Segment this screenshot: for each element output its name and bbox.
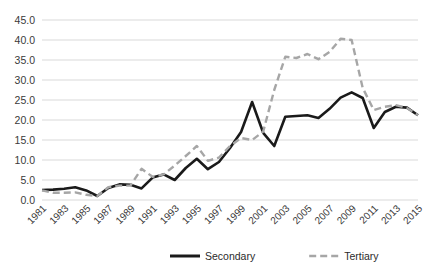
ytick-label: 0.0 xyxy=(20,194,35,206)
xtick-label: 2011 xyxy=(357,202,380,225)
xtick-label: 1991 xyxy=(135,202,159,226)
chart-container: 45.040.035.030.025.020.015.010.05.00.019… xyxy=(0,0,432,270)
ytick-label: 10.0 xyxy=(15,154,36,166)
xtick-label: 2007 xyxy=(312,202,336,226)
xtick-label: 2015 xyxy=(401,202,425,226)
xtick-label: 1985 xyxy=(69,202,93,226)
xtick-label: 1999 xyxy=(224,202,248,226)
ytick-label: 25.0 xyxy=(15,94,36,106)
ytick-label: 40.0 xyxy=(15,34,36,46)
xtick-label: 1983 xyxy=(47,202,71,226)
ytick-label: 30.0 xyxy=(15,74,36,86)
xtick-label: 1981 xyxy=(25,202,49,226)
plot-area xyxy=(42,20,418,200)
xtick-label: 2009 xyxy=(335,202,359,226)
xtick-label: 1989 xyxy=(113,202,137,226)
xtick-label: 1995 xyxy=(180,202,204,226)
ytick-label: 5.0 xyxy=(20,174,35,186)
legend-label-secondary: Secondary xyxy=(205,250,256,262)
xtick-label: 1993 xyxy=(158,202,182,226)
ytick-label: 20.0 xyxy=(15,114,36,126)
ytick-label: 35.0 xyxy=(15,54,36,66)
xtick-label: 2001 xyxy=(246,202,270,226)
xtick-label: 2003 xyxy=(268,202,292,226)
xtick-label: 2013 xyxy=(379,202,403,226)
xtick-label: 1997 xyxy=(202,202,226,226)
xtick-label: 1987 xyxy=(91,202,115,226)
ytick-label: 45.0 xyxy=(15,14,36,26)
ytick-label: 15.0 xyxy=(15,134,36,146)
line-chart: 45.040.035.030.025.020.015.010.05.00.019… xyxy=(0,0,432,270)
xtick-label: 2005 xyxy=(290,202,314,226)
legend-label-tertiary: Tertiary xyxy=(344,250,379,262)
